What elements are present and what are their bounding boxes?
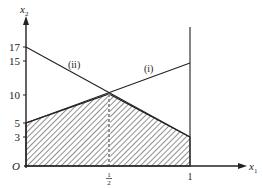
- x-tick-one: 1: [188, 171, 193, 182]
- y-tick-10: 10: [9, 89, 21, 101]
- x-axis-arrow-icon: [238, 163, 247, 169]
- x-tick-half-denominator: 2: [107, 179, 111, 187]
- line-label-ii: (ii): [68, 59, 80, 71]
- origin-label: O: [12, 160, 20, 172]
- y-tick-17: 17: [9, 41, 21, 53]
- x-tick-half-numerator: 1: [107, 171, 111, 179]
- y-tick-5: 5: [15, 117, 21, 129]
- lp-diagram: 17 15 10 5 3 O x2 x1 1 2 1 (ii) (i): [0, 0, 263, 188]
- y-axis-label: x2: [19, 3, 29, 18]
- y-tick-15: 15: [9, 55, 21, 67]
- line-label-i: (i): [144, 63, 153, 75]
- y-tick-3: 3: [15, 131, 21, 143]
- x-axis-label: x1: [248, 160, 258, 175]
